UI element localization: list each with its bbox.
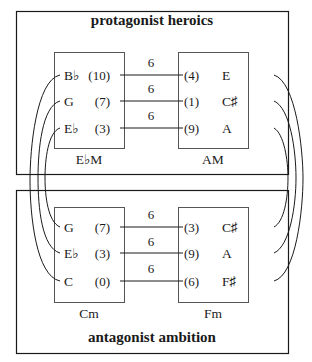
arc-connector — [274, 128, 288, 227]
pitch-class: (3) — [184, 220, 199, 235]
bottom-panel: G (7) E♭ (3) C (0) (3) C♯ (9) A (6) F♯ 6… — [17, 191, 289, 354]
note-name: A — [222, 246, 232, 261]
note-name: C♯ — [222, 94, 238, 109]
note-name: G — [64, 220, 74, 235]
interval-label: 6 — [148, 108, 155, 123]
chord-label-fm: Fm — [204, 306, 223, 321]
chord-label-am: AM — [202, 152, 224, 167]
pitch-class: (1) — [184, 94, 199, 109]
pitch-class: (7) — [95, 220, 110, 235]
pitch-class: (6) — [184, 274, 199, 289]
pitch-class: (10) — [88, 68, 110, 83]
pitch-class: (9) — [184, 121, 199, 136]
arc-connector — [45, 128, 60, 227]
note-name: A — [222, 121, 232, 136]
pitch-class: (3) — [95, 121, 110, 136]
note-name: B♭ — [64, 68, 79, 83]
note-name: E♭ — [64, 121, 79, 136]
note-name: C♯ — [222, 220, 238, 235]
pitch-class: (7) — [95, 94, 110, 109]
interval-label: 6 — [148, 207, 155, 222]
pitch-class: (4) — [184, 68, 199, 83]
arc-connector — [274, 101, 296, 253]
top-panel-title: protagonist heroics — [91, 12, 214, 28]
bottom-panel-title: antagonist ambition — [88, 329, 217, 345]
note-name: C — [64, 274, 73, 289]
top-panel: protagonist heroics B♭ (10) G (7) E♭ (3)… — [17, 12, 289, 175]
interval-label: 6 — [148, 55, 155, 70]
chord-label-ebm: E♭M — [76, 152, 103, 167]
note-name: F♯ — [222, 274, 237, 289]
interval-label: 6 — [148, 234, 155, 249]
pitch-class: (0) — [95, 274, 110, 289]
chord-relationship-diagram: protagonist heroics B♭ (10) G (7) E♭ (3)… — [0, 0, 312, 362]
pitch-class: (9) — [184, 246, 199, 261]
interval-label: 6 — [148, 81, 155, 96]
pitch-class: (3) — [95, 246, 110, 261]
interval-label: 6 — [148, 261, 155, 276]
left-common-tone-arcs — [30, 75, 60, 281]
note-name: E — [222, 68, 230, 83]
note-name: G — [64, 94, 74, 109]
arc-connector — [38, 101, 60, 253]
chord-label-cm: Cm — [79, 306, 99, 321]
note-name: E♭ — [64, 246, 79, 261]
